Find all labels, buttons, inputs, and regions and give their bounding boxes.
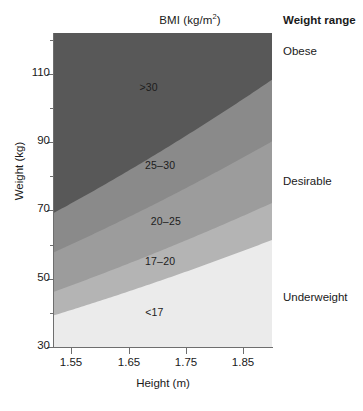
band-label-25-30: 25–30	[145, 159, 175, 171]
y-axis-line	[53, 33, 54, 348]
chart-title-base: BMI (kg/m	[159, 14, 212, 26]
plot-area: >3025–3020–2517–20<17	[54, 33, 272, 347]
band-label-17: <17	[145, 306, 163, 318]
x-tick-label-1-65: 1.65	[106, 356, 152, 368]
x-tick-1-75	[186, 348, 187, 354]
legend-entry-desirable: Desirable	[283, 175, 332, 187]
y-minor-tick-80	[50, 176, 53, 177]
chart-title: BMI (kg/m2)	[110, 14, 270, 26]
y-tick-label-110: 110	[10, 66, 50, 78]
x-tick-label-1-55: 1.55	[48, 356, 94, 368]
x-tick-label-1-85: 1.85	[220, 356, 266, 368]
band-label-20-25: 20–25	[151, 215, 181, 227]
bmi-chart-figure: BMI (kg/m2) Weight range >3025–3020–2517…	[0, 0, 363, 411]
y-tick-label-50: 50	[10, 271, 50, 283]
y-tick-label-30: 30	[10, 339, 50, 351]
chart-title-close: )	[217, 14, 221, 26]
y-minor-tick-100	[50, 108, 53, 109]
y-axis-title: Weight (kg)	[13, 116, 25, 226]
legend-entry-underweight: Underweight	[283, 291, 348, 303]
y-minor-tick-40	[50, 313, 53, 314]
x-tick-label-1-75: 1.75	[163, 356, 209, 368]
x-tick-1-85	[243, 348, 244, 354]
x-axis-line	[53, 347, 273, 348]
legend-title: Weight range	[283, 14, 356, 26]
band-label-30: >30	[139, 81, 157, 93]
y-minor-tick-120	[50, 40, 53, 41]
band-label-17-20: 17–20	[145, 255, 175, 267]
bmi-band-regions	[54, 33, 272, 347]
x-tick-1-55	[71, 348, 72, 354]
legend-entry-obese: Obese	[283, 45, 317, 57]
y-minor-tick-60	[50, 245, 53, 246]
x-axis-title: Height (m)	[54, 377, 272, 389]
x-tick-1-65	[129, 348, 130, 354]
